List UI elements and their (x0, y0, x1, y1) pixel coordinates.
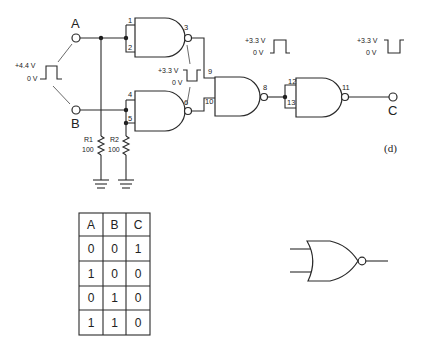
truth-table-cell: 1 (111, 316, 118, 330)
pin-label: 5 (128, 114, 132, 123)
pin-label: 12 (288, 77, 296, 86)
truth-table-header: B (110, 218, 118, 232)
gate8-pulse-waveform: +3.3 V 0 V (245, 37, 290, 56)
truth-table-cell: 0 (111, 267, 118, 281)
r2-value: 100 (108, 146, 120, 153)
truth-table-cell: 0 (135, 291, 142, 305)
input-b-label: B (71, 116, 80, 131)
resistor-r2: R2 100 (108, 136, 134, 188)
output-c-label: C (388, 103, 397, 118)
r1-name: R1 (84, 136, 93, 143)
output-pulse-high: +3.3 V (357, 37, 378, 44)
input-a-terminal (72, 34, 80, 42)
pin-label: 13 (287, 98, 295, 107)
truth-table-cell: 1 (88, 267, 95, 281)
pin-label: 8 (263, 83, 267, 92)
inversion-bubble (185, 35, 192, 42)
r2-name: R2 (110, 136, 119, 143)
inversion-bubble (261, 94, 268, 101)
gate8-pulse-low: 0 V (253, 49, 264, 56)
pin-label: 3 (184, 23, 188, 32)
resistor-r1: R1 100 (82, 136, 109, 188)
output-c-terminal (389, 93, 397, 101)
input-pulse-waveform: +4.4 V 0 V (15, 44, 72, 104)
truth-table-cell: 1 (111, 291, 118, 305)
input-a: A (71, 16, 135, 52)
pin-label: 2 (128, 43, 132, 52)
pin-label: 4 (128, 90, 132, 99)
pin-label: 10 (205, 97, 213, 106)
nand-gate-4: 12 13 11 (287, 77, 389, 117)
mid-pulse-low: 0 V (172, 79, 183, 86)
truth-table-header: A (87, 218, 95, 232)
nand-gate-2: 4 5 6 (128, 90, 215, 131)
r1-value: 100 (82, 146, 94, 153)
pin-label: 9 (208, 67, 212, 76)
truth-table-cell: 0 (88, 242, 95, 256)
inversion-bubble (185, 108, 192, 115)
truth-table-cell: 0 (88, 291, 95, 305)
inversion-bubble (342, 94, 349, 101)
input-b-terminal (72, 106, 80, 114)
pin-label: 1 (128, 16, 132, 25)
truth-table: A B C 0 0 1 1 0 0 0 1 0 1 1 0 (79, 213, 150, 335)
inversion-bubble (358, 257, 366, 265)
input-pulse-low: 0 V (27, 75, 38, 82)
truth-table-cell: 1 (135, 242, 142, 256)
nand-gate-3: 9 10 8 (205, 67, 296, 116)
pin-label: 11 (342, 83, 350, 92)
truth-table-header: C (134, 218, 143, 232)
gate8-pulse-high: +3.3 V (245, 37, 266, 44)
nor-circuit-diagram: A B R1 100 R2 100 (0, 0, 445, 349)
output-pulse-low: 0 V (366, 49, 377, 56)
figure-label: (d) (384, 142, 397, 155)
input-a-label: A (71, 16, 80, 31)
truth-table-cell: 1 (88, 316, 95, 330)
truth-table-cell: 0 (111, 242, 118, 256)
nor-gate-symbol (290, 241, 388, 281)
input-b: B (71, 100, 135, 131)
mid-pulse-high: +3.3 V (158, 67, 179, 74)
truth-table-cell: 0 (135, 316, 142, 330)
output-pulse-waveform: +3.3 V 0 V (357, 37, 404, 56)
output-c: C (388, 93, 397, 118)
truth-table-cell: 0 (135, 267, 142, 281)
input-pulse-high: +4.4 V (15, 62, 36, 69)
